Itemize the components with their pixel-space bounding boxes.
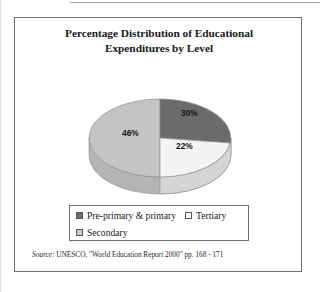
- page-title: Percentage Distribution of Educational E…: [33, 26, 285, 55]
- legend-row: Pre-primary & primary Tertiary: [70, 207, 248, 224]
- scan-edge-artifact-top: [70, 2, 320, 3]
- chart-title-line-2: Expenditures by Level: [33, 41, 285, 56]
- source-citation: UNESCO, "World Education Report 2000" pp…: [54, 250, 223, 259]
- legend-label-tertiary: Tertiary: [196, 210, 226, 221]
- pie-label-pre-primary: 30%: [181, 108, 198, 118]
- legend-swatch-icon-pre-primary: [76, 212, 83, 219]
- source-label: Source:: [32, 250, 54, 259]
- legend-swatch-icon-tertiary: [185, 212, 192, 219]
- figure-frame: Percentage Distribution of Educational E…: [14, 17, 302, 272]
- legend-swatch-icon-secondary: [76, 229, 83, 236]
- scan-edge-artifact-left: [0, 0, 1, 292]
- pie-label-secondary: 46%: [122, 128, 139, 138]
- pie-chart: 30% 22% 46%: [84, 80, 236, 195]
- chart-legend: Pre-primary & primary Tertiary Secondary: [69, 205, 249, 241]
- legend-entry-pre-primary: Pre-primary & primary: [76, 210, 176, 221]
- legend-row: Secondary: [70, 224, 248, 241]
- legend-entry-tertiary: Tertiary: [185, 210, 226, 221]
- pie-slice-pre-primary: [160, 99, 231, 143]
- pie-label-tertiary: 22%: [176, 141, 193, 151]
- source-note: Source: UNESCO, "World Education Report …: [32, 250, 223, 259]
- pie-chart-svg: [84, 80, 236, 195]
- legend-label-secondary: Secondary: [87, 227, 128, 238]
- legend-label-pre-primary: Pre-primary & primary: [87, 210, 176, 221]
- chart-title-line-1: Percentage Distribution of Educational: [65, 27, 253, 39]
- legend-entry-secondary: Secondary: [76, 227, 128, 238]
